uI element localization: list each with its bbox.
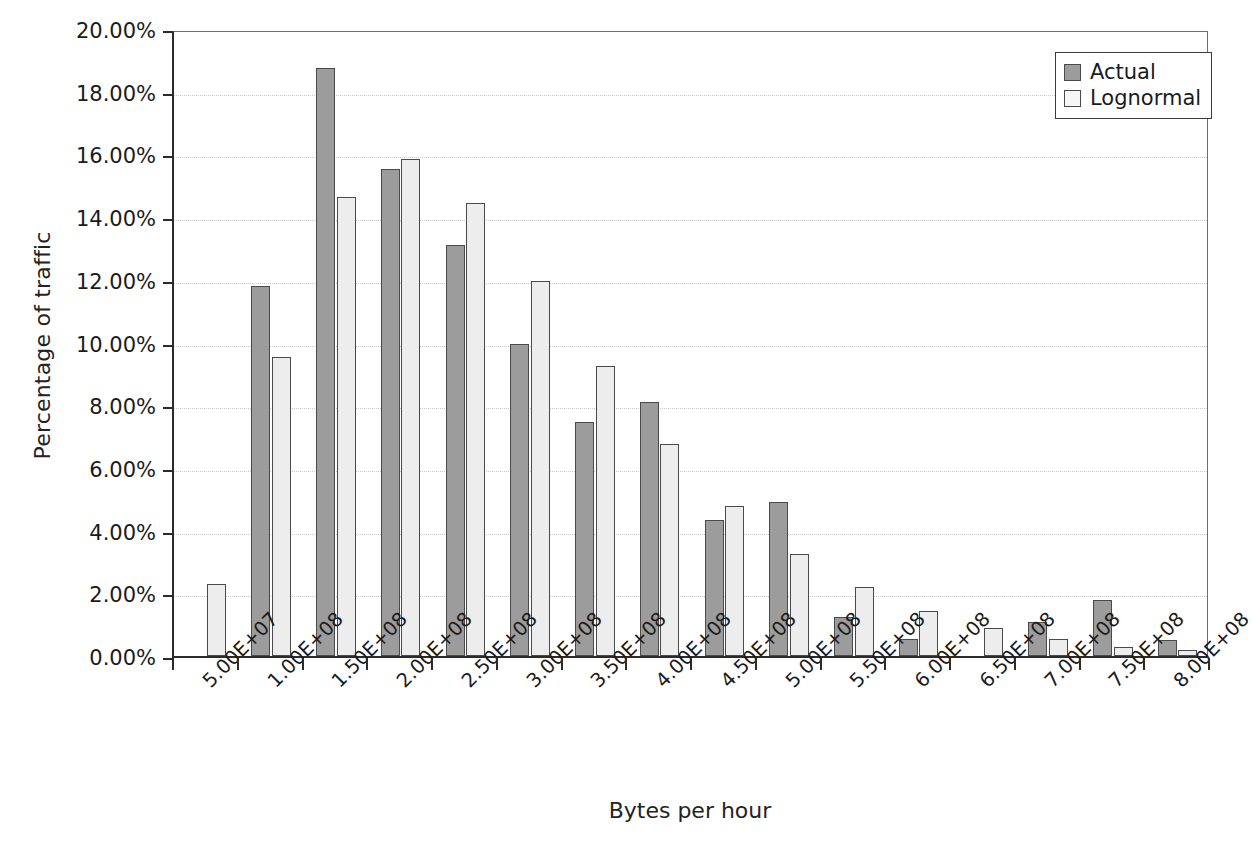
y-axis-tick-label: 0.00% — [0, 646, 156, 670]
bar-group — [886, 32, 951, 656]
plot-area — [172, 31, 1208, 658]
x-axis-tick — [755, 658, 757, 670]
y-axis-tick-label: 16.00% — [0, 144, 156, 168]
x-axis-tick — [237, 658, 239, 670]
y-axis-tick — [163, 31, 173, 33]
bar-group — [304, 32, 369, 656]
legend-swatch-lognormal-icon — [1064, 90, 1081, 107]
legend-label: Actual — [1090, 60, 1156, 86]
x-axis-tick — [884, 658, 886, 670]
bar-lognormal — [596, 366, 615, 656]
y-axis-tick — [163, 345, 173, 347]
bar-group — [1145, 32, 1210, 656]
x-axis-tick — [1208, 658, 1210, 670]
bar-group — [757, 32, 822, 656]
x-axis-tick — [1014, 658, 1016, 670]
x-axis-tick — [1143, 658, 1145, 670]
bar-group — [951, 32, 1016, 656]
bar-lognormal — [790, 554, 809, 656]
bar-lognormal — [207, 584, 226, 656]
bar-actual — [316, 68, 335, 656]
x-axis-tick — [302, 658, 304, 670]
bar-group — [822, 32, 887, 656]
x-axis-tick — [1079, 658, 1081, 670]
bar-lognormal — [337, 197, 356, 656]
legend-swatch-actual-icon — [1064, 64, 1081, 81]
y-axis-tick — [163, 156, 173, 158]
y-axis-tick-label: 18.00% — [0, 82, 156, 106]
y-axis-tick-label: 20.00% — [0, 19, 156, 43]
bar-group — [174, 32, 239, 656]
y-axis-tick — [163, 595, 173, 597]
y-axis-tick — [163, 94, 173, 96]
bar-group — [1016, 32, 1081, 656]
x-axis-tick — [690, 658, 692, 670]
bar-group — [498, 32, 563, 656]
y-axis-tick — [163, 282, 173, 284]
bar-lognormal — [725, 506, 744, 656]
legend-label: Lognormal — [1090, 86, 1201, 112]
y-axis-tick-label: 14.00% — [0, 207, 156, 231]
y-axis-tick — [163, 407, 173, 409]
x-axis-tick — [949, 658, 951, 670]
y-axis-tick — [163, 219, 173, 221]
x-axis-tick — [496, 658, 498, 670]
legend-entry-actual: Actual — [1064, 60, 1201, 86]
bar-group — [563, 32, 628, 656]
x-axis-tick — [561, 658, 563, 670]
bar-actual — [251, 286, 270, 656]
y-axis-tick-label: 8.00% — [0, 395, 156, 419]
bar-lognormal — [466, 203, 485, 656]
x-axis-tick — [625, 658, 627, 670]
y-axis-tick-label: 2.00% — [0, 583, 156, 607]
y-axis-tick-label: 10.00% — [0, 333, 156, 357]
bar-actual — [381, 169, 400, 656]
y-axis-tick — [163, 470, 173, 472]
legend-entry-lognormal: Lognormal — [1064, 86, 1201, 112]
bar-group — [692, 32, 757, 656]
x-axis-title: Bytes per hour — [172, 798, 1208, 823]
bar-group — [627, 32, 692, 656]
bar-lognormal — [401, 159, 420, 656]
y-axis-tick-label: 6.00% — [0, 458, 156, 482]
bar-group — [433, 32, 498, 656]
y-axis-tick-label: 4.00% — [0, 521, 156, 545]
x-axis-tick — [431, 658, 433, 670]
x-axis-tick — [820, 658, 822, 670]
bar-lognormal — [531, 281, 550, 656]
x-axis-tick — [172, 658, 174, 670]
bar-actual — [446, 245, 465, 656]
y-axis-tick — [163, 533, 173, 535]
bar-group — [239, 32, 304, 656]
bar-group — [1081, 32, 1146, 656]
bar-group — [368, 32, 433, 656]
chart-legend: ActualLognormal — [1055, 52, 1212, 119]
x-axis-tick — [366, 658, 368, 670]
y-axis-tick-label: 12.00% — [0, 270, 156, 294]
bar-lognormal — [272, 357, 291, 656]
